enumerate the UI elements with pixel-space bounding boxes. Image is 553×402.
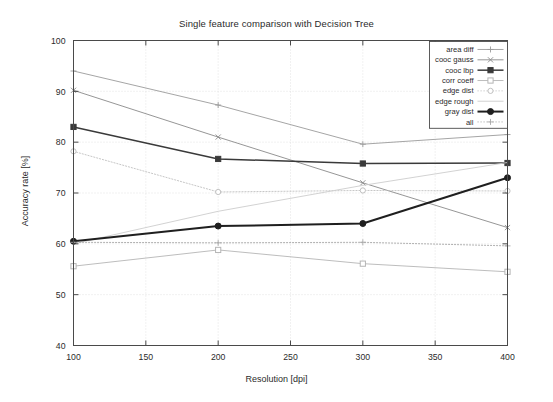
svg-text:80: 80 — [56, 137, 66, 147]
svg-text:50: 50 — [56, 290, 66, 300]
chart-figure: Single feature comparison with Decision … — [0, 0, 553, 402]
legend-label-area-diff: area diff — [446, 45, 474, 54]
svg-text:400: 400 — [500, 352, 515, 362]
legend-label-cooc-lbp: cooc lbp — [445, 66, 473, 75]
chart-legend: area diffcooc gausscooc lbpcorr coeffedg… — [430, 42, 508, 129]
svg-text:100: 100 — [66, 352, 81, 362]
svg-text:90: 90 — [56, 87, 66, 97]
svg-text:40: 40 — [56, 341, 66, 351]
svg-text:150: 150 — [139, 352, 154, 362]
legend-label-corr-coeff: corr coeff — [442, 76, 474, 85]
svg-text:300: 300 — [356, 352, 371, 362]
svg-text:350: 350 — [428, 352, 443, 362]
svg-text:70: 70 — [56, 188, 66, 198]
legend-label-edge-rough: edge rough — [435, 97, 473, 106]
legend-label-cooc-gauss: cooc gauss — [435, 55, 474, 64]
legend-label-all: all — [466, 118, 474, 127]
plot-area: 405060708090100100150200250300350400 are… — [0, 0, 553, 402]
legend-label-edge-dist: edge dist — [443, 86, 475, 95]
svg-text:100: 100 — [51, 36, 66, 46]
svg-text:200: 200 — [211, 352, 226, 362]
svg-text:60: 60 — [56, 239, 66, 249]
svg-text:250: 250 — [283, 352, 298, 362]
legend-label-gray-dist: gray dist — [445, 107, 475, 116]
